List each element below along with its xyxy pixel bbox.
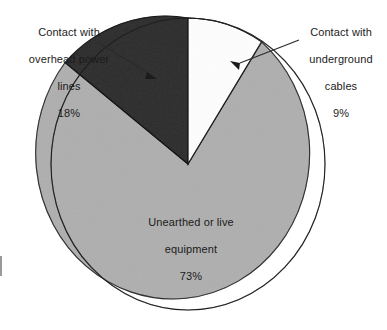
- slice-label-overhead-power-lines: Contact with overhead power lines 18%: [2, 12, 136, 134]
- scan-edge-artifact: [0, 256, 2, 276]
- slice-label-overhead-line2: overhead power: [29, 53, 109, 65]
- slice-label-overhead-line1: Contact with: [38, 26, 100, 38]
- slice-label-overhead-line3: lines: [57, 80, 80, 92]
- slice-label-unearthed-or-live-equipment: Unearthed or live equipment 73%: [118, 202, 264, 297]
- slice-label-underground-cables: Contact with underground cables 9%: [296, 12, 386, 134]
- pie-chart-page: Contact with overhead power lines 18% Co…: [0, 0, 387, 330]
- slice-percent-overhead-power-lines: 18%: [2, 107, 136, 121]
- slice-label-underground-line1: Contact with: [310, 26, 372, 38]
- slice-percent-underground-cables: 9%: [296, 107, 386, 121]
- slice-label-underground-line3: cables: [325, 80, 357, 92]
- slice-label-underground-line2: underground: [309, 53, 373, 65]
- slice-label-unearthed-line2: equipment: [165, 243, 217, 255]
- slice-label-unearthed-line1: Unearthed or live: [148, 216, 233, 228]
- slice-percent-unearthed-or-live-equipment: 73%: [118, 270, 264, 284]
